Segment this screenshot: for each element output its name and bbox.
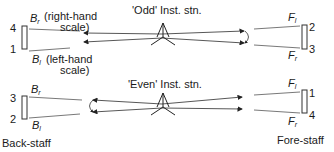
even-station-label: 'Even' Inst. stn. [128,79,202,90]
odd-bl-label: Bl [32,54,41,68]
odd-br-note2: scale) [60,22,89,33]
odd-station-label: 'Odd' Inst. stn. [132,5,202,16]
even-back-bottom-number: 2 [10,114,16,125]
odd-fr-label: Fr [288,50,297,64]
odd-back-upper-sight [84,33,162,34]
even-back-top-number: 3 [10,93,16,104]
odd-back-top-number: 4 [10,23,16,34]
levelling-diagram [0,0,334,152]
even-fore-bottom-number: 4 [309,110,315,121]
odd-back-staff [22,26,27,49]
even-fore-upper-sight [162,97,242,104]
fore-staff-label: Fore-staff [277,135,324,146]
odd-fore-staff [302,25,307,49]
even-bl-label: Bl [32,120,41,134]
odd-fl-label: Fl [288,12,296,26]
even-back-lower-sight [93,108,162,112]
odd-back-bottom-number: 1 [10,44,16,55]
even-back-staff [22,96,27,119]
even-rotate-arrow [90,100,94,112]
even-fore-lower-sight [162,108,242,109]
odd-br-label: Br [30,13,40,27]
odd-fore-lower-sight [162,38,244,43]
odd-rotate-arrow [245,31,249,43]
odd-fore-top-number: 2 [309,22,315,33]
even-fr-label: Fr [288,116,297,130]
even-fl-label: Fl [288,78,296,92]
odd-back-lower-sight [84,38,162,42]
even-fore-top-number: 1 [309,88,315,99]
even-back-upper-sight [93,100,162,104]
odd-bl-note2: scale) [60,65,89,76]
odd-fore-bottom-number: 3 [309,44,315,55]
odd-fore-upper-sight [162,31,244,34]
even-br-label: Br [31,84,41,98]
even-fore-staff [302,90,307,113]
back-staff-label: Back-staff [2,138,51,149]
